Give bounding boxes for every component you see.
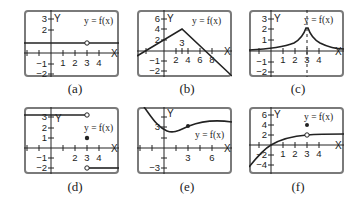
x-tick-label: 1 xyxy=(280,54,285,65)
graph-panel-a: 1 2 3 4 3 2 −1 −2 Y X y = f(x) xyxy=(24,10,119,77)
x-tick-label: 3 xyxy=(185,152,190,163)
x-tick-label: 2 xyxy=(292,54,297,65)
caption-c: (c) xyxy=(278,81,318,97)
closed-dot-point xyxy=(186,124,190,128)
equation-label: y = f(x) xyxy=(84,16,113,27)
equation-label: y = f(x) xyxy=(304,15,333,26)
open-circle-point xyxy=(85,166,89,170)
vertex-annotation: 3 xyxy=(179,37,184,48)
y-tick-label: 3 xyxy=(42,111,47,122)
graph-panel-c: 1 2 3 4 3 2 1 −1 −2 Y X y = f(x) xyxy=(249,10,344,77)
graph-d-plot: 2 3 4 3 2 1 −1 −2 Y X y = f(x) xyxy=(24,107,119,174)
y-tick-label: 4 xyxy=(155,23,160,34)
graph-b-plot: 2 4 6 8 6 4 2 −1 −2 Y X y = f(x) 3 xyxy=(137,10,232,77)
caption-d: (d) xyxy=(55,179,95,195)
y-tick-label: −2 xyxy=(36,162,47,173)
y-tick-label: 2 xyxy=(42,24,47,35)
y-tick-label: 3 xyxy=(42,13,47,24)
x-tick-label: 2 xyxy=(292,148,297,159)
y-axis-label: Y xyxy=(274,13,281,24)
y-tick-label: −2 xyxy=(256,66,267,77)
x-axis-label: X xyxy=(224,143,231,154)
x-tick-label: 6 xyxy=(209,152,214,163)
x-tick-label: 4 xyxy=(316,148,321,159)
graph-f-plot: 1 2 3 4 6 4 2 −2 −4 Y X y = f(x) xyxy=(249,107,344,174)
x-tick-label: 2 xyxy=(72,57,77,68)
graph-a-plot: 1 2 3 4 3 2 −1 −2 Y X y = f(x) xyxy=(24,10,119,77)
x-tick-label: 2 xyxy=(72,152,77,163)
closed-dot-point xyxy=(305,123,309,127)
x-tick-label: 6 xyxy=(197,54,202,65)
y-axis-label: Y xyxy=(54,13,61,24)
y-axis-label: Y xyxy=(167,108,174,119)
open-circle-point xyxy=(85,41,89,45)
y-tick-label: −2 xyxy=(36,68,47,77)
x-axis-label: X xyxy=(335,140,342,151)
graph-panel-f: 1 2 3 4 6 4 2 −2 −4 Y X y = f(x) xyxy=(249,107,344,174)
caption-f: (f) xyxy=(278,179,318,195)
x-tick-label: 4 xyxy=(185,54,190,65)
y-tick-label: 1 xyxy=(262,34,267,45)
x-tick-label: 3 xyxy=(304,54,309,65)
x-tick-label: 3 xyxy=(84,152,89,163)
x-tick-label: 2 xyxy=(173,54,178,65)
y-tick-label: −4 xyxy=(256,159,267,170)
y-axis-label: Y xyxy=(167,13,174,24)
caption-b: (b) xyxy=(167,81,207,97)
x-axis-label: X xyxy=(111,143,118,154)
graph-panel-b: 2 4 6 8 6 4 2 −1 −2 Y X y = f(x) 3 xyxy=(137,10,232,77)
x-axis-label: X xyxy=(111,48,118,59)
x-tick-label: 3 xyxy=(84,57,89,68)
x-tick-label: 4 xyxy=(96,152,101,163)
equation-label: y = f(x) xyxy=(192,16,221,27)
equation-label: y = f(x) xyxy=(84,123,113,134)
caption-a: (a) xyxy=(55,81,95,97)
x-tick-label: 1 xyxy=(280,148,285,159)
y-tick-label: −2 xyxy=(149,65,160,76)
equation-label: y = f(x) xyxy=(304,112,333,123)
closed-dot-point xyxy=(85,136,89,140)
open-circle-point xyxy=(305,133,309,137)
y-axis-label: Y xyxy=(274,109,281,120)
graph-e-plot: 3 6 3 −3 Y X y = f(x) xyxy=(137,107,232,174)
x-tick-label: 4 xyxy=(316,54,321,65)
graph-c-plot: 1 2 3 4 3 2 1 −1 −2 Y X y = f(x) xyxy=(249,10,344,77)
x-tick-label: 1 xyxy=(60,57,65,68)
graph-panel-e: 3 6 3 −3 Y X y = f(x) xyxy=(137,107,232,174)
equation-label: y = f(x) xyxy=(195,130,224,141)
caption-e: (e) xyxy=(167,179,207,195)
open-circle-point xyxy=(85,113,89,117)
y-tick-label: 2 xyxy=(262,129,267,140)
x-tick-label: 4 xyxy=(96,57,101,68)
x-tick-label: 3 xyxy=(304,148,309,159)
graph-panel-d: 2 3 4 3 2 1 −1 −2 Y X y = f(x) xyxy=(24,107,119,174)
x-axis-label: X xyxy=(224,46,231,57)
y-tick-label: −3 xyxy=(149,162,160,173)
y-tick-label: 2 xyxy=(262,23,267,34)
y-tick-label: 1 xyxy=(42,132,47,143)
